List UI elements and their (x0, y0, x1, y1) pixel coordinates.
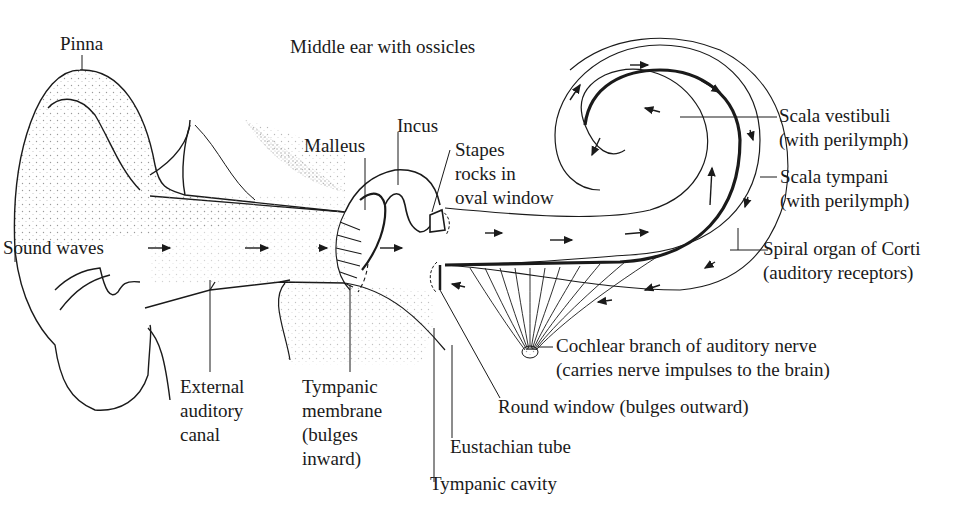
label-cochlear-nerve: Cochlear branch of auditory nerve (carri… (556, 334, 830, 382)
label-incus: Incus (397, 114, 438, 138)
label-pinna: Pinna (60, 32, 103, 56)
label-sound-waves: Sound waves (3, 236, 104, 260)
ear-anatomy-diagram: Pinna Middle ear with ossicles Incus Mal… (0, 0, 968, 510)
lower-bone (277, 283, 434, 365)
label-malleus: Malleus (304, 134, 365, 158)
label-round-window: Round window (bulges outward) (498, 395, 749, 419)
label-scala-vestibuli: Scala vestibuli (with perilymph) (779, 104, 908, 152)
label-spiral-organ: Spiral organ of Corti (auditory receptor… (763, 237, 920, 285)
label-tympanic-cavity: Tympanic cavity (430, 472, 557, 496)
label-tympanic-membrane: Tympanic membrane (bulges inward) (302, 375, 382, 471)
label-eustachian-tube: Eustachian tube (450, 435, 571, 459)
label-stapes: Stapes rocks in oval window (455, 138, 554, 210)
label-scala-tympani: Scala tympani (with perilymph) (780, 165, 909, 213)
cochlear-nerve-root (522, 346, 538, 358)
label-external-canal: External auditory canal (180, 375, 244, 447)
ossicles-shape (345, 170, 445, 270)
label-middle-ear: Middle ear with ossicles (290, 35, 475, 59)
